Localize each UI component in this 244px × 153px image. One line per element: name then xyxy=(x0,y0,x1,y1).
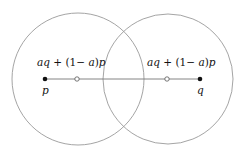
diagram-canvas: aq + (1− a)p aq + (1− a)p p q xyxy=(0,0,244,153)
interpolated-point-right xyxy=(165,77,169,81)
label-left-expression: aq + (1− a)p xyxy=(37,56,106,68)
interpolation-diagram: aq + (1− a)p aq + (1− a)p p q xyxy=(0,0,244,153)
label-q: q xyxy=(197,84,204,96)
label-right-expression: aq + (1− a)p xyxy=(147,56,216,68)
interpolated-point-left xyxy=(75,77,79,81)
point-q xyxy=(198,77,203,82)
point-p xyxy=(43,77,48,82)
label-p: p xyxy=(42,84,49,96)
